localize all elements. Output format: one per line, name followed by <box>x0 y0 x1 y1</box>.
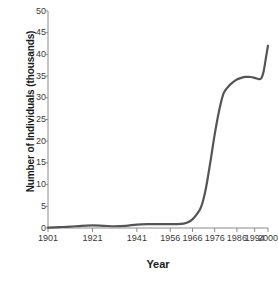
data-series-line <box>48 46 268 228</box>
line-chart: Number of Individuals (thousands) 051015… <box>0 0 278 282</box>
x-axis-title: Year <box>48 258 268 270</box>
x-tick-label: 1901 <box>38 233 58 243</box>
x-tick-label: 2000 <box>258 233 278 243</box>
x-tick-label: 1941 <box>127 233 147 243</box>
x-tick-label: 1956 <box>160 233 180 243</box>
x-axis-ticks <box>48 228 268 232</box>
x-tick-label: 1976 <box>205 233 225 243</box>
axes <box>48 11 268 228</box>
x-tick-label: 1921 <box>82 233 102 243</box>
x-tick-label: 1966 <box>182 233 202 243</box>
